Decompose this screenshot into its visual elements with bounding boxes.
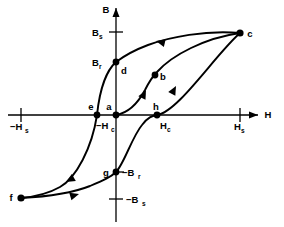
axes-group <box>8 8 258 222</box>
arrow-ascending-right-icon <box>168 84 179 96</box>
tick-label-br: B r <box>92 57 102 70</box>
svg-text:r: r <box>99 63 102 70</box>
svg-text:s: s <box>25 127 29 134</box>
h-axis-label: H <box>265 109 272 120</box>
point-marker-g <box>113 169 120 176</box>
svg-text:−H: −H <box>10 121 23 132</box>
point-marker-f <box>17 194 24 201</box>
b-axis-label: B <box>103 4 110 15</box>
point-marker-a <box>113 112 120 119</box>
point-label-e: e <box>88 101 93 112</box>
point-label-c: c <box>247 28 252 39</box>
tick-label-pos-hs: H s <box>234 121 245 134</box>
point-marker-d <box>113 59 120 66</box>
svg-text:−H: −H <box>96 120 109 131</box>
hysteresis-loop-svg: H B −H s H s B s B r −B r <box>0 0 284 227</box>
point-marker-e <box>94 112 101 119</box>
svg-text:B: B <box>92 27 99 38</box>
svg-text:c: c <box>167 126 171 133</box>
point-label-f: f <box>9 192 13 203</box>
svg-text:s: s <box>241 127 245 134</box>
svg-text:−B: −B <box>122 167 135 178</box>
svg-text:−B: −B <box>126 194 139 205</box>
tick-label-neg-br: −B r <box>122 167 141 180</box>
svg-text:s: s <box>99 33 103 40</box>
axis-labels-group: H B <box>103 4 272 120</box>
hysteresis-loop-figure: H B −H s H s B s B r −B r <box>0 0 284 227</box>
svg-text:H: H <box>234 121 241 132</box>
inline-label-pos-hc: H c <box>160 120 171 133</box>
point-marker-c <box>236 29 243 36</box>
svg-text:c: c <box>111 126 115 133</box>
tick-label-neg-hs: −H s <box>10 121 29 134</box>
point-label-g: g <box>103 167 109 178</box>
point-label-h: h <box>153 101 159 112</box>
point-marker-h <box>154 112 161 119</box>
point-label-d: d <box>121 65 127 76</box>
svg-text:s: s <box>142 200 146 207</box>
point-marker-b <box>152 72 159 79</box>
svg-text:H: H <box>160 120 167 131</box>
tick-label-bs: B s <box>92 27 103 40</box>
b-axis-arrow-icon <box>113 8 120 17</box>
h-axis-arrow-icon <box>249 112 258 119</box>
point-label-a: a <box>106 101 112 112</box>
inline-label-neg-hc: −H c <box>96 120 115 133</box>
point-label-b: b <box>160 71 166 82</box>
svg-text:r: r <box>138 173 141 180</box>
svg-text:B: B <box>92 57 99 68</box>
tick-label-neg-bs: −B s <box>126 194 146 207</box>
